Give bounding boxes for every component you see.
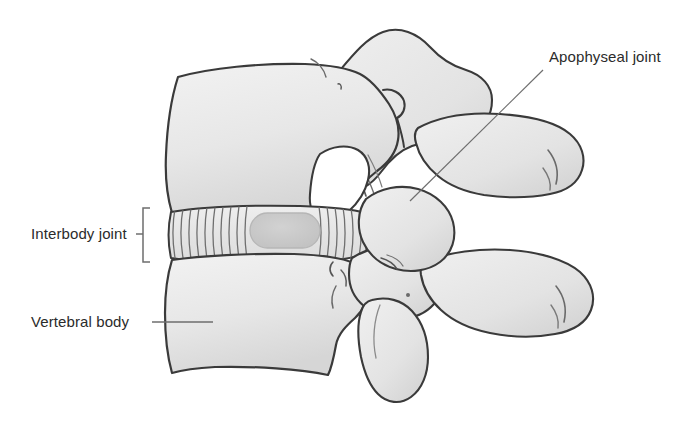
- lower-vertebral-body: [165, 254, 367, 375]
- vertebral-body-label: Vertebral body: [31, 313, 130, 330]
- anatomy-figure: Apophyseal joint Interbody joint Vertebr…: [0, 0, 681, 435]
- label-interbody-joint: Interbody joint: [31, 208, 150, 262]
- vertebrae-illustration: Apophyseal joint Interbody joint Vertebr…: [0, 0, 681, 435]
- interbody-joint-label: Interbody joint: [31, 225, 127, 242]
- nucleus-pulposus: [250, 213, 320, 248]
- interbody-joint-bracket: [143, 208, 150, 262]
- lower-spinous-process: [421, 250, 593, 337]
- upper-spinous-process: [415, 114, 584, 198]
- apophyseal-joint-label: Apophyseal joint: [549, 48, 661, 65]
